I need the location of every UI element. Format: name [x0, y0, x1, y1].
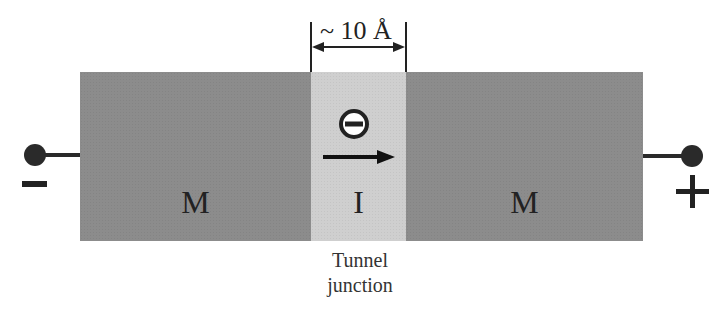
left-terminal-dot	[24, 144, 46, 166]
electron-minus-icon	[337, 107, 377, 147]
tunnel-junction-caption: Tunnel junction	[300, 248, 420, 298]
caption-line-1: Tunnel	[300, 248, 420, 273]
insulator-label: I	[311, 186, 406, 218]
right-terminal-dot	[681, 145, 703, 167]
caption-line-2: junction	[300, 273, 420, 298]
left-terminal	[0, 130, 80, 220]
electron-flow-arrow-icon	[321, 147, 401, 167]
insulator-layer: I	[311, 72, 406, 241]
metal-layer-right: M	[406, 72, 643, 241]
metal-right-label: M	[406, 186, 643, 218]
minus-sign-icon	[22, 181, 47, 187]
metal-layer-left: M	[80, 72, 311, 241]
right-terminal	[643, 130, 728, 220]
dimension-annotation: ~ 10 Å	[300, 10, 420, 72]
left-terminal-wire	[44, 153, 80, 157]
metal-left-label: M	[80, 186, 311, 218]
right-terminal-wire	[643, 154, 683, 158]
dimension-arrow-icon	[300, 10, 420, 72]
